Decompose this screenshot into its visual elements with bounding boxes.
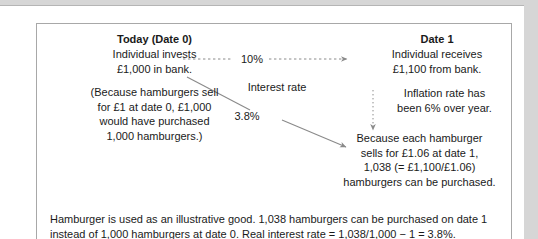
today-paren-line-4: 1,000 hamburgers.) (47, 129, 262, 144)
date1-column: Date 1 Individual receives £1,100 from b… (367, 32, 507, 76)
inflation-line-2: been 6% over year. (382, 101, 507, 116)
today-heading: Today (Date 0) (47, 32, 262, 47)
nominal-rate-value: 10% (213, 52, 291, 67)
interest-rate-label: Interest rate (212, 80, 342, 95)
date1-heading: Date 1 (367, 32, 507, 47)
inflation-note: Inflation rate has been 6% over year. (382, 86, 507, 115)
exhibit-footnote: Hamburger is used as an illustrative goo… (50, 212, 502, 239)
real-rate-label-group: 3.8% (212, 109, 282, 124)
date1-line-1: Individual receives (367, 47, 507, 62)
exhibit-figure-box: Today (Date 0) Individual invests £1,000… (36, 23, 512, 239)
burgers-line-3: 1,038 (= £1,100/£1.06) (327, 160, 512, 175)
hamburger-calculation-note: Because each hamburger sells for £1.06 a… (327, 131, 512, 189)
burgers-line-2: sells for £1.06 at date 1, (327, 146, 512, 161)
burgers-line-1: Because each hamburger (327, 131, 512, 146)
nominal-rate-label-group: 10% (213, 52, 291, 67)
footnote-line-2: instead of 1,000 hamburgers at date 0. R… (50, 227, 502, 239)
real-rate-value: 3.8% (212, 109, 282, 124)
interest-rate-label-group: Interest rate (212, 80, 342, 95)
date1-line-2: £1,100 from bank. (367, 62, 507, 77)
inflation-line-1: Inflation rate has (382, 86, 507, 101)
document-sheet: Today (Date 0) Individual invests £1,000… (0, 6, 524, 239)
burgers-line-4: hamburgers can be purchased. (327, 175, 512, 190)
footnote-line-1: Hamburger is used as an illustrative goo… (50, 212, 502, 227)
screenshot-page: Today (Date 0) Individual invests £1,000… (0, 0, 538, 239)
